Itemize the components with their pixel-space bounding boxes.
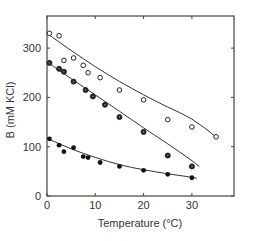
open-circle-marker (57, 33, 62, 38)
marker-center (104, 104, 106, 106)
y-axis-title: B (mM KCl) (4, 82, 16, 139)
x-tick-label: 10 (89, 199, 101, 211)
open-circle-marker (86, 70, 91, 75)
open-circle-marker (71, 56, 76, 61)
marker-center (119, 116, 121, 118)
marker-center (143, 131, 145, 133)
x-tick-label: 30 (186, 199, 198, 211)
open-circle-marker (214, 135, 219, 140)
chart: 0102030 0100200300 Temperature (°C) B (m… (0, 0, 264, 241)
marker-center (58, 68, 60, 70)
filled-circle-marker (141, 168, 146, 173)
filled-circle-marker (47, 136, 52, 141)
filled-circle-marker (71, 145, 76, 150)
y-tick-label: 200 (23, 91, 41, 103)
filled-circle-marker (81, 154, 86, 159)
open-circle-marker (98, 75, 103, 80)
fit-lines (47, 33, 216, 178)
filled-circle-marker (190, 175, 195, 180)
open-circle-marker (62, 58, 67, 63)
marker-center (167, 155, 169, 157)
open-circle-marker (165, 117, 170, 122)
open-circle-marker (81, 63, 86, 68)
y-tick-label: 300 (23, 42, 41, 54)
x-axis-title: Temperature (°C) (98, 217, 182, 229)
x-tick-label: 20 (137, 199, 149, 211)
filled-circle-marker (86, 155, 91, 160)
filled-circle-marker (165, 172, 170, 177)
fit-line (47, 138, 197, 178)
marker-center (63, 71, 65, 73)
fit-line (47, 33, 216, 137)
marker-center (73, 81, 75, 83)
x-axis: 0102030 (44, 16, 198, 211)
data-points (47, 31, 218, 180)
filled-circle-marker (117, 164, 122, 169)
x-tick-label: 0 (44, 199, 50, 211)
y-axis: 0100200300 (23, 42, 234, 202)
filled-circle-marker (57, 143, 62, 148)
marker-center (191, 166, 193, 168)
open-circle-marker (47, 31, 52, 36)
y-tick-label: 0 (35, 190, 41, 202)
open-circle-marker (141, 98, 146, 103)
fit-line (47, 62, 199, 167)
open-circle-marker (117, 88, 122, 93)
y-tick-label: 100 (23, 141, 41, 153)
marker-center (85, 89, 87, 91)
marker-center (92, 96, 94, 98)
marker-center (49, 62, 51, 64)
open-circle-marker (190, 125, 195, 130)
filled-circle-marker (62, 149, 67, 154)
filled-circle-marker (98, 160, 103, 165)
